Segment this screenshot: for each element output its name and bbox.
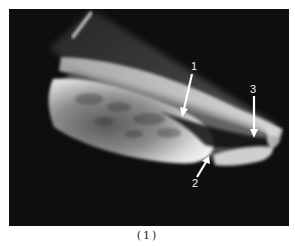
annotation-label-1: 1	[191, 61, 197, 72]
radiograph-image: 1 2 3	[9, 9, 289, 226]
annotation-label-2: 2	[192, 178, 198, 189]
figure-caption: (1)	[0, 229, 295, 242]
annotation-label-3: 3	[250, 84, 256, 95]
specimen-illustration	[9, 9, 289, 226]
